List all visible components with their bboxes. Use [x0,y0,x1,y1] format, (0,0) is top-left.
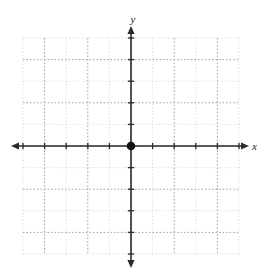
y-axis-label: y [130,13,136,25]
data-point [127,142,136,151]
x-axis-label: x [251,140,257,152]
coordinate-plane-figure: y x [0,0,260,274]
coordinate-grid-svg: y x [0,0,260,274]
data-point-group [127,142,136,151]
